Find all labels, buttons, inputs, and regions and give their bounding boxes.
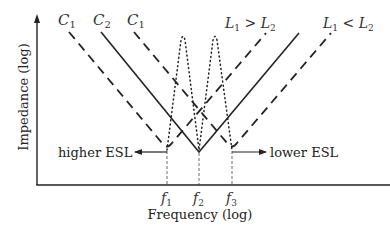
tick-f1: f1: [160, 190, 172, 208]
label-l1-less-l2: L1 < L2: [322, 15, 374, 33]
curve-c1-right-l1-less: [134, 32, 331, 147]
label-c2: C2: [93, 11, 111, 30]
curve-dotted-antiresonance: [167, 37, 232, 151]
label-l1-greater-l2: L1 > L2: [224, 15, 276, 33]
frequency-guides: [167, 151, 232, 186]
impedance-diagram: C1 C2 C1 L1 > L2 L1 < L2 higher ESL lowe…: [0, 0, 390, 234]
curve-c1-left-l1-greater: [69, 32, 266, 147]
curve-c2-solid: [101, 32, 299, 152]
higher-esl-label: higher ESL: [58, 145, 133, 160]
label-c1-right: C1: [127, 11, 145, 30]
higher-esl-annotation: higher ESL: [58, 145, 167, 160]
y-axis-arrow-icon: [34, 14, 40, 23]
label-c1-left: C1: [58, 11, 76, 30]
y-axis-label: Impedance (log): [16, 43, 31, 150]
tick-f3: f3: [225, 190, 237, 208]
lower-esl-label: lower ESL: [270, 145, 339, 160]
tick-f2: f2: [192, 190, 204, 208]
lower-esl-annotation: lower ESL: [232, 145, 339, 160]
x-axis-label: Frequency (log): [148, 207, 253, 222]
